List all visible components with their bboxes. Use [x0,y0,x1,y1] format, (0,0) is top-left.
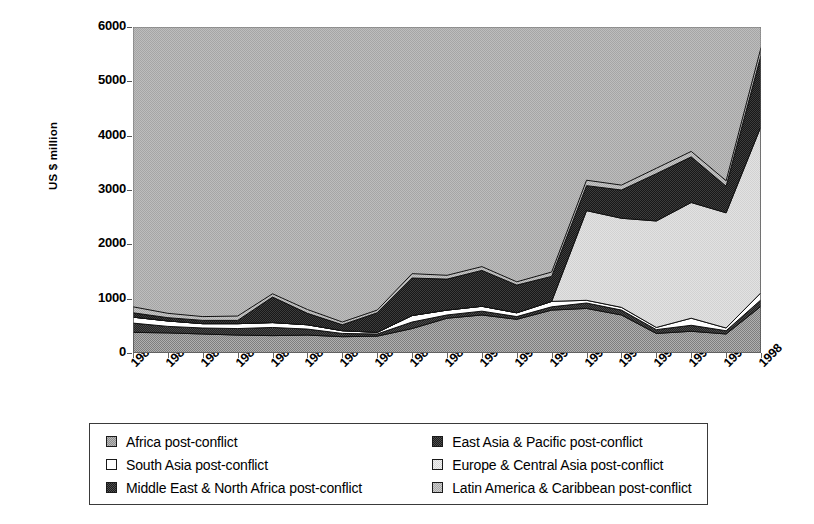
y-tick-mark-3000 [127,190,132,191]
chart-legend: Africa post-conflict South Asia post-con… [89,423,708,505]
legend-item-south-asia[interactable]: South Asia post-conflict [106,455,432,474]
legend-swatch-africa [106,436,117,447]
legend-item-middle-east-north-africa[interactable]: Middle East & North Africa post-conflict [106,478,432,497]
x-tick-mark-1984 [273,353,274,358]
stacked-area-chart-figure: US $ million 0100020003000400050006000 1… [0,0,814,524]
plot-area [133,27,761,353]
legend-label-east-asia-pacific: East Asia & Pacific post-conflict [452,434,642,450]
x-tick-mark-1982 [203,353,204,358]
y-tick-mark-0 [127,353,132,354]
x-tick-mark-1989 [447,353,448,358]
y-tick-mark-6000 [127,27,132,28]
y-tick-mark-5000 [127,81,132,82]
legend-item-latin-america-caribbean[interactable]: Latin America & Caribbean post-conflict [432,478,707,497]
x-tick-mark-1990 [482,353,483,358]
x-tick-mark-1993 [587,353,588,358]
x-tick-mark-1983 [238,353,239,358]
legend-label-south-asia: South Asia post-conflict [126,457,268,473]
legend-swatch-south-asia [106,459,117,470]
x-tick-mark-1980 [133,353,134,358]
legend-item-africa[interactable]: Africa post-conflict [106,432,432,451]
y-tick-mark-1000 [127,299,132,300]
x-tick-mark-1985 [307,353,308,358]
legend-swatch-europe-central-asia [432,459,443,470]
legend-column-left: Africa post-conflict South Asia post-con… [90,432,432,504]
legend-label-europe-central-asia: Europe & Central Asia post-conflict [452,457,663,473]
x-tick-mark-1981 [168,353,169,358]
x-tick-mark-1996 [691,353,692,358]
legend-swatch-latin-america-caribbean [432,482,443,493]
y-tick-mark-2000 [127,244,132,245]
y-tick-mark-4000 [127,136,132,137]
x-tick-mark-1988 [412,353,413,358]
legend-swatch-middle-east-north-africa [106,482,117,493]
legend-swatch-east-asia-pacific [432,436,443,447]
legend-item-europe-central-asia[interactable]: Europe & Central Asia post-conflict [432,455,707,474]
legend-label-latin-america-caribbean: Latin America & Caribbean post-conflict [452,480,691,496]
legend-label-africa: Africa post-conflict [126,434,237,450]
legend-label-middle-east-north-africa: Middle East & North Africa post-conflict [126,480,362,496]
legend-column-right: East Asia & Pacific post-conflict Europe… [432,432,707,504]
x-tick-mark-1997 [726,353,727,358]
x-tick-mark-1994 [621,353,622,358]
x-tick-mark-1992 [552,353,553,358]
legend-item-east-asia-pacific[interactable]: East Asia & Pacific post-conflict [432,432,707,451]
plot-svg [133,27,761,353]
x-tick-mark-1991 [517,353,518,358]
x-tick-mark-1995 [656,353,657,358]
x-tick-mark-1998 [761,353,762,358]
x-tick-mark-1987 [377,353,378,358]
x-tick-mark-1986 [342,353,343,358]
